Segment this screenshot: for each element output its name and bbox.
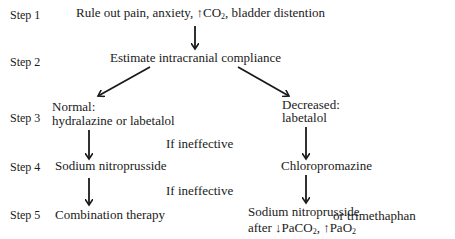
arrow-step2-to-normal: [98, 67, 150, 96]
step1-text-end: , bladder distention: [225, 5, 325, 20]
step5-normal-node: Combination therapy: [55, 208, 165, 222]
step5-decreased-line2: after ↓PaCO2, ↑PaO2: [248, 221, 356, 235]
step-2-label: Step 2: [10, 55, 40, 69]
step-4-label: Step 4: [10, 160, 40, 174]
step3-decreased-treatment: labetalol: [282, 111, 327, 125]
after-text: after: [248, 220, 275, 235]
step1-text: Rule out pain, anxiety,: [76, 5, 196, 20]
step1-node: Rule out pain, anxiety, ↑CO2, bladder di…: [76, 6, 325, 20]
condition-if-ineffective-2: If ineffective: [166, 184, 233, 198]
arrow-step2-to-decreased: [238, 67, 289, 96]
pao2-subscript: 2: [352, 227, 356, 236]
step-5-label: Step 5: [10, 208, 40, 222]
step4-decreased-node: Chloropromazine: [281, 159, 372, 173]
step2-node: Estimate intracranial compliance: [110, 51, 281, 65]
pao2-text: PaO: [330, 220, 352, 235]
step3-normal-label: Normal:: [52, 100, 95, 114]
step-1-label: Step 1: [10, 8, 40, 22]
condition-if-ineffective-1: If ineffective: [166, 137, 233, 151]
step-3-label: Step 3: [10, 111, 40, 125]
co2-text: CO: [203, 5, 221, 20]
paco2-text: PaCO: [282, 220, 313, 235]
step4-normal-node: Sodium nitroprusside: [55, 159, 167, 173]
step3-normal-treatment: hydralazine or labetalol: [52, 114, 175, 128]
